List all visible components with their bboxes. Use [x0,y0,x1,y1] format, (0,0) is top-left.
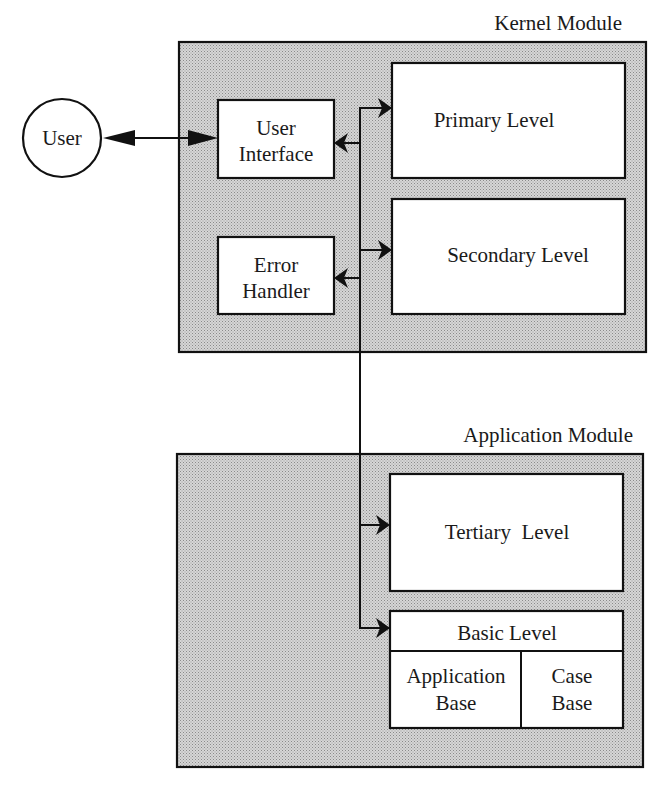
case-base-label-line1: Case [552,664,593,688]
architecture-diagram: Kernel Module User Interface Error Handl… [0,0,668,786]
error-handler-box[interactable]: Error Handler [218,237,334,314]
kernel-module: Kernel Module User Interface Error Handl… [179,11,646,352]
kernel-module-title: Kernel Module [494,11,622,35]
user-interface-box[interactable]: User Interface [218,100,334,178]
user-interface-label-line1: User [256,116,296,140]
basic-level-box[interactable]: Basic Level Application Base Case Base [390,611,623,728]
error-handler-label-line2: Handler [242,279,310,303]
primary-level-label: Primary Level [434,108,555,132]
tertiary-level-box[interactable]: Tertiary Level [390,474,623,591]
user-node[interactable]: User [23,99,101,177]
application-module-title: Application Module [463,423,633,447]
application-base-label-line2: Base [436,691,477,715]
basic-level-label: Basic Level [457,621,557,645]
application-base-label-line1: Application [406,664,506,688]
error-handler-label-line1: Error [254,253,298,277]
arrowhead-left-icon [103,130,135,146]
user-interface-label-line2: Interface [239,142,314,166]
secondary-level-box[interactable]: Secondary Level [392,199,625,314]
user-label: User [42,126,82,150]
secondary-level-label: Secondary Level [447,243,589,267]
case-base-label-line2: Base [552,691,593,715]
primary-level-box[interactable]: Primary Level [392,63,625,178]
tertiary-level-label: Tertiary Level [445,520,570,544]
application-module: Application Module Tertiary Level Basic … [177,423,643,767]
